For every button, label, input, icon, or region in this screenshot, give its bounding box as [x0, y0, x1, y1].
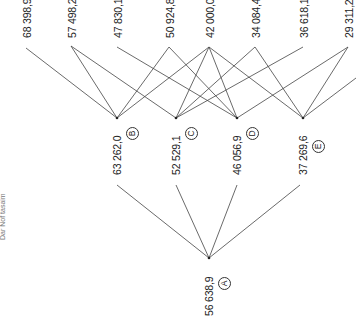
node-b-badge: B: [126, 127, 139, 140]
node-a-badge: A: [218, 277, 231, 290]
top-value-6: 34 084,4: [250, 0, 262, 38]
node-c-badge: C: [185, 127, 198, 140]
node-e-badge: E: [312, 140, 325, 153]
node-a-value: 56 638,9: [203, 277, 215, 316]
top-value-1: 68 398,9: [21, 0, 33, 38]
top-value-5: 42 000,0: [204, 0, 216, 38]
node-d-value: 46 056,9: [231, 136, 243, 175]
top-value-8: 29 311,2: [343, 0, 355, 38]
top-value-2: 57 498,2: [66, 0, 78, 38]
node-d-badge: D: [246, 127, 259, 140]
top-value-7: 36 618,1: [298, 0, 310, 38]
node-c-value: 52 529,1: [170, 136, 182, 175]
top-value-4: 50 924,8: [164, 0, 176, 38]
node-b-value: 63 262,0: [111, 136, 123, 175]
side-label: Dar Nof tasaim: [0, 193, 6, 240]
top-value-3: 47 830,1: [112, 0, 124, 38]
node-e-value: 37 269,6: [297, 136, 309, 175]
